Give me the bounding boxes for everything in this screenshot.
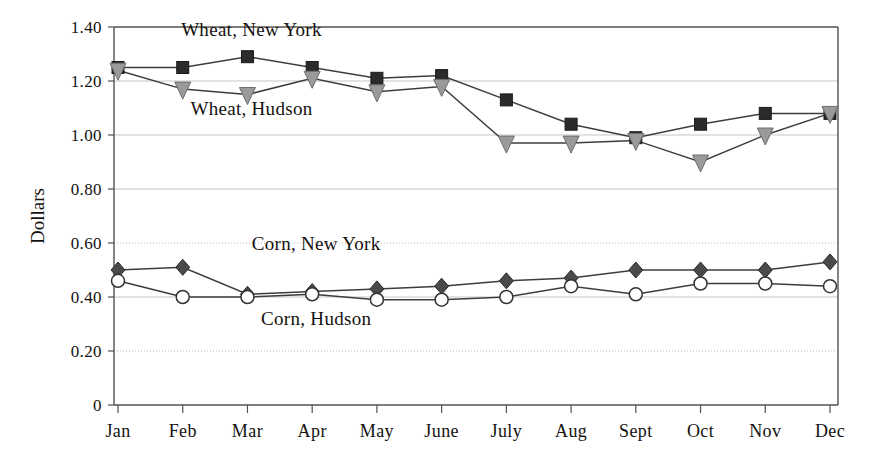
x-tick-label: June (424, 421, 459, 441)
datapoint-corn-hudson (435, 293, 448, 306)
datapoint-corn-hudson (629, 288, 642, 301)
y-tick-label: 1.00 (71, 126, 102, 145)
series-markers-group (110, 51, 838, 307)
datapoint-corn-hudson (565, 280, 578, 293)
series-label-corn-hudson: Corn, Hudson (261, 308, 371, 329)
datapoint-wheat-new-york (241, 51, 253, 63)
datapoint-corn-hudson (112, 274, 125, 287)
gridlines-group (114, 81, 838, 351)
y-axis-title: Dollars (27, 188, 48, 244)
x-tick-label: Feb (169, 421, 197, 441)
series-line-corn-new-york (118, 262, 830, 294)
datapoint-corn-hudson (370, 293, 383, 306)
datapoint-corn-new-york (499, 273, 513, 289)
datapoint-wheat-hudson (693, 155, 709, 172)
x-tick-label: Aug (555, 421, 587, 441)
datapoint-wheat-hudson (563, 136, 579, 153)
y-tick-label: 0 (93, 396, 102, 415)
datapoint-corn-new-york (435, 278, 449, 294)
x-tick-label: Oct (687, 421, 714, 441)
datapoint-wheat-new-york (500, 94, 512, 106)
datapoint-wheat-new-york (565, 118, 577, 130)
datapoint-corn-hudson (824, 280, 837, 293)
datapoint-wheat-new-york (695, 118, 707, 130)
datapoint-corn-new-york (694, 262, 708, 278)
datapoint-wheat-hudson (757, 128, 773, 145)
datapoint-corn-new-york (629, 262, 643, 278)
datapoint-wheat-hudson (434, 79, 450, 96)
y-axis-ticks: 1.401.201.000.800.600.400.200 (71, 18, 114, 415)
y-tick-label: 1.40 (71, 18, 102, 37)
x-axis-ticks: JanFebMarAprMayJuneJulyAugSeptOctNovDec (105, 405, 845, 441)
y-tick-label: 0.60 (71, 234, 102, 253)
y-tick-label: 1.20 (71, 72, 102, 91)
y-tick-label: 0.80 (71, 180, 102, 199)
series-label-corn-new-york: Corn, New York (252, 233, 381, 254)
datapoint-wheat-new-york (759, 107, 771, 119)
series-label-wheat-new-york: Wheat, New York (181, 19, 322, 40)
x-tick-label: Jan (105, 421, 130, 441)
x-tick-label: Nov (749, 421, 781, 441)
series-lines-group (118, 57, 830, 300)
datapoint-corn-hudson (306, 288, 319, 301)
datapoint-wheat-new-york (371, 72, 383, 84)
datapoint-corn-hudson (241, 291, 254, 304)
x-tick-label: July (491, 421, 523, 441)
series-annotations-group: Wheat, New YorkWheat, HudsonCorn, New Yo… (181, 19, 381, 329)
datapoint-wheat-new-york (177, 62, 189, 74)
x-tick-label: Apr (298, 421, 327, 441)
y-tick-label: 0.20 (71, 342, 102, 361)
datapoint-corn-new-york (823, 254, 837, 270)
datapoint-corn-hudson (500, 291, 513, 304)
datapoint-wheat-hudson (498, 136, 514, 153)
datapoint-corn-new-york (758, 262, 772, 278)
datapoint-corn-new-york (176, 259, 190, 275)
datapoint-wheat-hudson (175, 82, 191, 99)
series-label-wheat-hudson: Wheat, Hudson (190, 98, 312, 119)
x-tick-label: Sept (619, 421, 653, 441)
plot-frame-group (114, 27, 838, 405)
datapoint-corn-hudson (759, 277, 772, 290)
line-chart: 1.401.201.000.800.600.400.200 JanFebMarA… (0, 0, 878, 468)
x-tick-label: Mar (232, 421, 263, 441)
chart-figure: 1.401.201.000.800.600.400.200 JanFebMarA… (0, 0, 878, 468)
datapoint-wheat-hudson (369, 85, 385, 102)
datapoint-corn-hudson (176, 291, 189, 304)
x-tick-label: May (360, 421, 394, 441)
x-tick-label: Dec (815, 421, 845, 441)
y-tick-label: 0.40 (71, 288, 102, 307)
datapoint-corn-hudson (694, 277, 707, 290)
